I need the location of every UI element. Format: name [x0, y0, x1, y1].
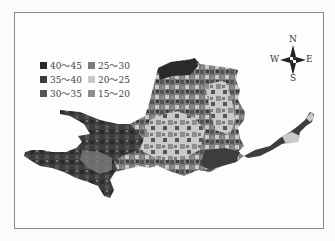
legend-label: 40～45	[50, 59, 82, 72]
legend-item: 30～35	[40, 88, 82, 99]
legend-swatch	[88, 62, 95, 69]
legend-swatch	[40, 76, 47, 83]
compass-east-label: E	[306, 54, 313, 64]
legend-swatch	[88, 76, 95, 83]
legend-label: 15～20	[98, 87, 130, 100]
legend-item: 35～40	[40, 74, 82, 85]
legend-label: 20～25	[98, 73, 130, 86]
legend-swatch	[88, 90, 95, 97]
legend-label: 25～30	[98, 59, 130, 72]
compass-star-icon	[280, 45, 306, 75]
legend-label: 30～35	[50, 87, 82, 100]
legend-item: 15～20	[88, 88, 130, 99]
legend-item: 25～30	[88, 60, 130, 71]
legend-swatch	[40, 90, 47, 97]
legend-swatch	[40, 62, 47, 69]
legend-item: 20～25	[88, 74, 130, 85]
compass-west-label: W	[270, 54, 279, 64]
region-east-tail	[244, 112, 314, 158]
compass-rose: N W E S	[272, 37, 322, 87]
legend-label: 35～40	[50, 73, 82, 86]
legend-item: 40～45	[40, 60, 82, 71]
compass-north-label: N	[289, 34, 297, 44]
